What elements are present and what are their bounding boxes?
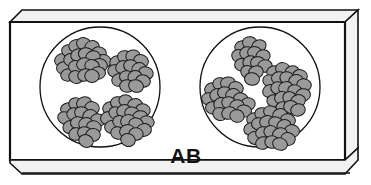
- slide-right-bevel: [345, 10, 358, 160]
- slide-top-bevel: [10, 10, 358, 22]
- red-blood-cell: [84, 69, 99, 83]
- slide-figure: AB: [0, 0, 371, 185]
- slide-label-ab: AB: [170, 144, 201, 167]
- blood-typing-slide-diagram: AB: [0, 0, 371, 185]
